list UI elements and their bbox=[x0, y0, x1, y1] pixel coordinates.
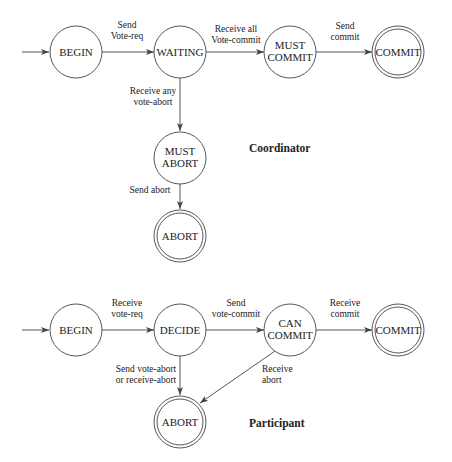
state-abort-label: ABORT bbox=[162, 416, 199, 428]
state-can-commit-label-1: CAN bbox=[278, 317, 301, 329]
state-abort-final: ABORT bbox=[154, 210, 206, 262]
label-cancommit-abort-1: Receive bbox=[262, 364, 293, 374]
state-must-abort-label-1: MUST bbox=[165, 145, 196, 157]
state-commit-label: COMMIT bbox=[375, 46, 421, 58]
state-waiting: WAITING bbox=[154, 26, 206, 78]
label-cancommit-abort-2: abort bbox=[262, 375, 282, 385]
label-begin-decide-2: vote-req bbox=[111, 309, 143, 319]
state-must-abort: MUST ABORT bbox=[154, 132, 206, 184]
coordinator-title: Coordinator bbox=[249, 142, 310, 154]
coordinator-diagram: BEGIN WAITING MUST COMMIT COMMIT MUST AB… bbox=[22, 20, 424, 262]
state-commit-final: COMMIT bbox=[372, 304, 424, 356]
label-mustcommit-commit-2: commit bbox=[330, 32, 359, 42]
state-commit-final: COMMIT bbox=[372, 26, 424, 78]
state-can-commit-label-2: COMMIT bbox=[267, 329, 313, 341]
state-must-abort-label-2: ABORT bbox=[162, 157, 199, 169]
state-abort-final: ABORT bbox=[154, 396, 206, 448]
state-must-commit: MUST COMMIT bbox=[264, 26, 316, 78]
label-waiting-mustcommit-2: Vote-commit bbox=[211, 35, 261, 45]
label-mustabort-abort: Send abort bbox=[130, 185, 171, 195]
label-decide-abort-1: Send vote-abort bbox=[116, 364, 177, 374]
participant-title: Participant bbox=[249, 417, 305, 430]
label-decide-abort-2: or receive-abort bbox=[116, 375, 177, 385]
state-must-commit-label-1: MUST bbox=[275, 39, 306, 51]
label-cancommit-commit-1: Receive bbox=[330, 298, 361, 308]
label-begin-waiting-2: Vote-req bbox=[111, 31, 144, 41]
label-waiting-mustabort-1: Receive any bbox=[130, 86, 177, 96]
state-commit-label: COMMIT bbox=[375, 324, 421, 336]
label-cancommit-commit-2: commit bbox=[330, 309, 359, 319]
label-begin-decide-1: Receive bbox=[112, 298, 143, 308]
state-decide: DECIDE bbox=[154, 304, 206, 356]
state-decide-label: DECIDE bbox=[160, 324, 201, 336]
label-waiting-mustcommit-1: Receive all bbox=[215, 24, 258, 34]
label-decide-cancommit-1: Send bbox=[227, 298, 246, 308]
state-must-commit-label-2: COMMIT bbox=[267, 51, 313, 63]
state-diagram: BEGIN WAITING MUST COMMIT COMMIT MUST AB… bbox=[0, 0, 452, 462]
participant-diagram: BEGIN DECIDE CAN COMMIT COMMIT ABORT Rec… bbox=[22, 298, 424, 448]
label-mustcommit-commit-1: Send bbox=[336, 21, 355, 31]
state-begin-label: BEGIN bbox=[59, 324, 93, 336]
label-decide-cancommit-2: vote-commit bbox=[212, 309, 261, 319]
state-waiting-label: WAITING bbox=[156, 46, 203, 58]
state-abort-label: ABORT bbox=[162, 230, 199, 242]
state-begin: BEGIN bbox=[50, 304, 102, 356]
label-waiting-mustabort-2: vote-abort bbox=[133, 97, 172, 107]
state-begin: BEGIN bbox=[50, 26, 102, 78]
state-can-commit: CAN COMMIT bbox=[264, 304, 316, 356]
label-begin-waiting-1: Send bbox=[118, 20, 137, 30]
state-begin-label: BEGIN bbox=[59, 46, 93, 58]
